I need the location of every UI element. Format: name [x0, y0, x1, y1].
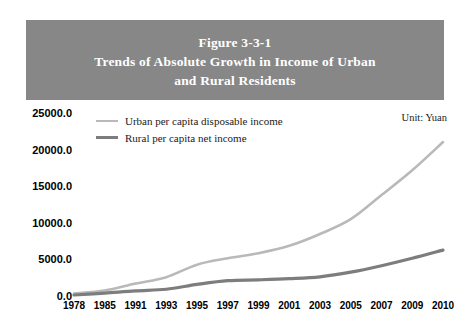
figure-title-line-1: Trends of Absolute Growth in Income of U…	[94, 52, 375, 71]
series-line-rural	[74, 250, 443, 295]
x-axis-tick-label: 1985	[94, 300, 116, 311]
x-axis-tick-label: 1991	[124, 300, 146, 311]
x-axis-labels: 1978198519911993199519971999200120032005…	[74, 300, 443, 318]
x-axis-tick-label: 1995	[186, 300, 208, 311]
figure-number: Figure 3-3-1	[198, 33, 271, 52]
y-axis-tick-label: 5000.0	[6, 253, 72, 265]
figure-title-line-2: and Rural Residents	[174, 71, 296, 90]
plot-area	[74, 113, 443, 296]
figure-title-band: Figure 3-3-1 Trends of Absolute Growth i…	[26, 20, 444, 100]
series-canvas	[74, 113, 443, 296]
x-axis-tick-label: 2009	[401, 300, 423, 311]
x-axis-tick-label: 1993	[155, 300, 177, 311]
x-axis-tick-label: 2003	[309, 300, 331, 311]
plot-wrapper: Unit: Yuan Urban per capita disposable i…	[0, 100, 469, 335]
x-axis-tick-label: 1999	[247, 300, 269, 311]
y-axis-tick-label: 15000.0	[6, 180, 72, 192]
x-axis-tick-label: 2007	[370, 300, 392, 311]
series-line-urban	[74, 142, 443, 293]
figure-container: Figure 3-3-1 Trends of Absolute Growth i…	[0, 0, 469, 335]
y-axis-tick-label: 10000.0	[6, 217, 72, 229]
x-axis-tick-label: 2010	[432, 300, 454, 311]
y-axis-tick-label: 25000.0	[6, 107, 72, 119]
x-axis-tick-label: 2001	[278, 300, 300, 311]
x-axis-tick-label: 2005	[340, 300, 362, 311]
x-axis-tick-label: 1997	[217, 300, 239, 311]
x-axis-tick-label: 1978	[63, 300, 85, 311]
y-axis-labels: 0.05000.010000.015000.020000.025000.0	[0, 113, 72, 296]
y-axis-tick-label: 20000.0	[6, 144, 72, 156]
